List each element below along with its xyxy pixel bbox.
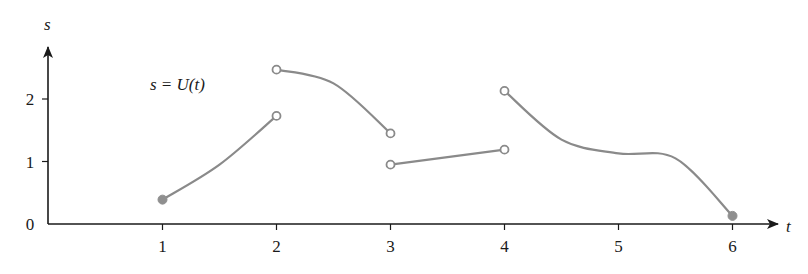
y-axis-label: s <box>44 15 51 34</box>
x-ticks: 123456 <box>158 224 737 256</box>
curve-segment-4 <box>505 91 733 216</box>
curve-segment-1 <box>163 116 277 200</box>
open-endpoint-circle <box>387 161 395 169</box>
x-axis-label: t <box>786 217 792 236</box>
open-endpoint-circle <box>273 112 281 120</box>
y-tick-label: 0 <box>26 215 35 234</box>
open-endpoint-circle <box>273 66 281 74</box>
x-tick-label: 4 <box>500 237 509 256</box>
curve-segment-2 <box>277 70 391 134</box>
curve-segments <box>163 70 733 216</box>
open-endpoint-circle <box>501 87 509 95</box>
x-tick-label: 6 <box>728 237 737 256</box>
plot-area: 123456 012 t s s = U(t) <box>0 0 808 274</box>
closed-endpoint-dot <box>158 195 167 204</box>
y-ticks: 012 <box>26 90 48 234</box>
open-endpoint-circle <box>501 146 509 154</box>
x-tick-label: 1 <box>158 237 167 256</box>
x-tick-label: 5 <box>614 237 623 256</box>
chart-figure: 123456 012 t s s = U(t) <box>0 0 808 274</box>
closed-endpoint-dot <box>728 211 737 220</box>
curve-segment-3 <box>391 150 505 165</box>
function-annotation: s = U(t) <box>150 75 205 94</box>
y-tick-label: 1 <box>26 153 35 172</box>
x-tick-label: 3 <box>386 237 395 256</box>
x-tick-label: 2 <box>272 237 281 256</box>
open-endpoint-circle <box>387 129 395 137</box>
y-tick-label: 2 <box>26 90 35 109</box>
